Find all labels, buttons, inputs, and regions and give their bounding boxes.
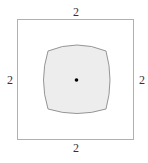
- right-side-label: 2: [139, 73, 145, 87]
- center-point: [75, 78, 79, 82]
- diagram-canvas: 2 2 2 2: [0, 0, 148, 163]
- bottom-side-label: 2: [73, 141, 79, 155]
- top-side-label: 2: [73, 5, 79, 19]
- left-side-label: 2: [7, 73, 13, 87]
